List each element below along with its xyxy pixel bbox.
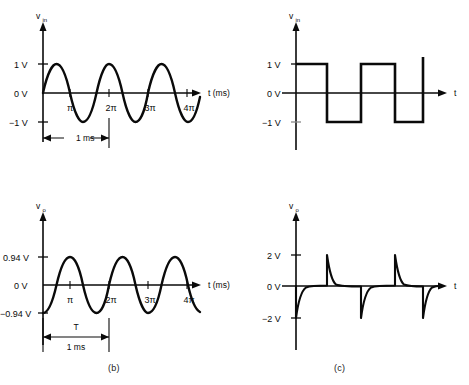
y-tick-label-pos1: 1 V — [14, 60, 28, 70]
y-axis-arrow — [293, 212, 300, 221]
x-tick-label-2pi: 2π — [105, 103, 116, 113]
chart-output-spike-wave: v o t 2 V 0 V −2 V — [235, 190, 469, 385]
panel-input-square-wave: v in t 1 V 0 V −1 V — [235, 0, 469, 190]
square-waveform-path — [296, 57, 423, 122]
y-axis-label: v — [289, 201, 294, 211]
x-tick-label-pi: π — [67, 103, 73, 113]
y-tick-label-zero: 0 V — [14, 89, 28, 99]
y-tick-label-zero: 0 V — [267, 89, 281, 99]
dimension-arrow-right — [101, 135, 109, 142]
x-axis-label: t — [454, 88, 457, 98]
y-axis-label-subscript: in — [296, 17, 301, 23]
y-tick-label-pos1: 1 V — [267, 60, 281, 70]
y-axis-label-subscript: o — [296, 207, 300, 213]
dimension-arrow-left — [43, 135, 51, 142]
chart-input-square-wave: v in t 1 V 0 V −1 V — [235, 0, 469, 190]
x-axis-arrow — [438, 90, 447, 97]
y-tick-label-zero: 0 V — [14, 281, 28, 291]
y-axis-label: v — [36, 201, 41, 211]
x-axis-label: t — [454, 281, 457, 291]
caption-c: (c) — [334, 363, 345, 373]
x-axis-arrow — [192, 90, 201, 97]
x-tick-label-pi: π — [67, 295, 73, 305]
y-axis-label-subscript: in — [43, 17, 48, 23]
y-axis-arrow — [293, 22, 300, 31]
y-tick-label-neg1: −1 V — [262, 118, 281, 128]
chart-input-sine-wave: v in t (ms) 1 V 0 V −1 V π 2π 3π 4π 1 ms — [0, 0, 235, 190]
y-axis-arrow — [40, 22, 47, 31]
waveform-figure: v in t (ms) 1 V 0 V −1 V π 2π 3π 4π 1 ms — [0, 0, 469, 385]
x-axis-arrow — [192, 282, 201, 289]
dimension-arrow-right — [101, 334, 109, 341]
x-tick-label-4pi: 4π — [183, 103, 194, 113]
caption-b: (b) — [108, 363, 120, 373]
x-tick-label-3pi: 3π — [144, 295, 155, 305]
panel-input-sine-wave: v in t (ms) 1 V 0 V −1 V π 2π 3π 4π 1 ms — [0, 0, 235, 190]
period-label: T — [73, 322, 78, 332]
y-axis-arrow — [40, 212, 47, 221]
x-axis-label: t (ms) — [208, 280, 230, 290]
x-tick-label-4pi: 4π — [183, 295, 194, 305]
y-tick-label-pos2: 2 V — [267, 251, 281, 261]
y-tick-label-zero: 0 V — [267, 282, 281, 292]
y-tick-label-neg1: −1 V — [9, 118, 28, 128]
dimension-label: 1 ms — [76, 133, 94, 143]
y-tick-label-neg2: −2 V — [262, 314, 281, 324]
dimension-label: 1 ms — [67, 342, 85, 352]
x-tick-label-3pi: 3π — [144, 103, 155, 113]
x-axis-label: t (ms) — [208, 88, 230, 98]
y-axis-label: v — [289, 11, 294, 21]
y-tick-label-pos094: 0.94 V — [3, 253, 29, 263]
y-tick-label-neg094: −0.94 V — [0, 309, 31, 319]
chart-output-sine-wave: v o t (ms) 0.94 V 0 V −0.94 V π 2π 3π 4π… — [0, 190, 235, 385]
x-tick-label-2pi: 2π — [105, 295, 116, 305]
panel-output-sine-wave: v o t (ms) 0.94 V 0 V −0.94 V π 2π 3π 4π… — [0, 190, 235, 385]
dimension-arrow-left — [43, 334, 51, 341]
y-axis-label: v — [36, 11, 41, 21]
panel-output-spike-wave: v o t 2 V 0 V −2 V — [235, 190, 469, 385]
y-axis-label-subscript: o — [43, 207, 47, 213]
